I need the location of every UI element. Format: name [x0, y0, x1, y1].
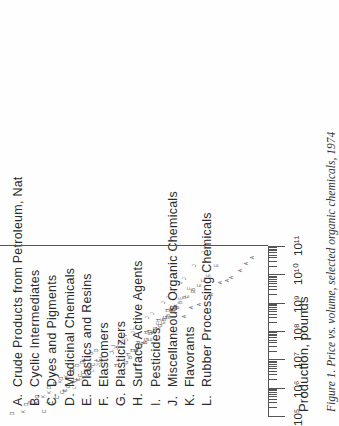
axis-title: Production, pounds	[296, 296, 311, 412]
axis-tick-minor	[268, 351, 277, 352]
axis-tick-minor	[268, 304, 277, 305]
axis-tick-minor	[268, 309, 277, 310]
scatter-point: E	[214, 264, 219, 267]
scatter-point: L	[97, 361, 102, 364]
axis-tick-minor	[268, 252, 277, 253]
axis-tick-major	[268, 331, 285, 332]
scatter-point: G	[144, 338, 149, 342]
axis-tick-minor	[268, 340, 277, 341]
scatter-point: J	[182, 277, 187, 280]
scatter-point: D	[94, 349, 99, 353]
scatter-point: A	[250, 256, 255, 259]
scatter-point: H	[166, 308, 171, 312]
scatter-point: J	[136, 326, 141, 329]
axis-tick-minor	[268, 374, 277, 375]
scatter-point: J	[96, 364, 101, 367]
axis-tick-minor	[268, 307, 277, 308]
scatter-point: L	[130, 327, 135, 330]
scatter-point: K	[47, 390, 52, 393]
axis-tick-minor	[268, 407, 277, 408]
axis-tick-minor	[268, 390, 277, 391]
scatter-point: E	[191, 290, 196, 293]
axis-tick-minor	[268, 286, 277, 287]
axis-tick-minor	[268, 279, 277, 280]
axis-tick-major	[268, 246, 285, 247]
scatter-point: K	[34, 401, 39, 404]
figure-caption: Figure 1. Price vs. volume, selected org…	[325, 132, 337, 412]
scatter-point: A	[209, 292, 214, 295]
axis-tick-minor	[268, 389, 277, 390]
scatter-point: E	[197, 284, 202, 287]
axis-tick-minor	[268, 379, 277, 380]
axis-tick-minor	[268, 399, 277, 400]
scatter-point: I	[62, 390, 67, 391]
scatter-point: L	[90, 369, 95, 372]
axis-tick-major	[268, 388, 285, 389]
scatter-point: J	[171, 290, 176, 293]
scatter-point: J	[201, 251, 206, 254]
scatter-point: E	[201, 279, 206, 282]
scatter-point: D	[48, 386, 53, 390]
scatter-point: I	[47, 402, 52, 403]
scatter-point: L	[85, 373, 90, 376]
scatter-point: H	[144, 330, 149, 334]
axis-tick-minor	[268, 322, 277, 323]
scatter-point: F	[187, 287, 192, 290]
axis-tick-minor	[268, 294, 277, 295]
axis-tick-minor	[268, 247, 277, 248]
scatter-point: A	[189, 305, 194, 308]
scatter-point: G	[159, 323, 164, 327]
axis-tick-minor	[268, 342, 277, 343]
axis-tick-minor	[268, 277, 277, 278]
scatter-point: G	[173, 305, 178, 309]
axis-tick-minor	[268, 332, 277, 333]
scatter-point: L	[119, 338, 124, 341]
scatter-point: D	[75, 364, 80, 368]
axis-tick-minor	[268, 361, 277, 362]
scatter-point: C	[55, 396, 60, 400]
scatter-point: H	[157, 318, 162, 322]
axis-tick-minor	[268, 362, 277, 363]
scatter-point: K	[21, 410, 26, 413]
axis-tick-minor	[268, 317, 277, 318]
scatter-point: J	[161, 301, 166, 304]
axis-tick-minor	[268, 394, 277, 395]
scatter-point: H	[114, 364, 119, 368]
axis-tick-minor	[268, 364, 277, 365]
scatter-point: K	[41, 395, 46, 398]
axis-tick-minor	[268, 281, 277, 282]
scatter-point: A	[197, 302, 202, 305]
axis-tick-minor	[268, 335, 277, 336]
axis-tick-minor	[268, 371, 277, 372]
scatter-point: J	[131, 331, 136, 334]
scatter-point: I	[123, 335, 128, 336]
axis-tick-minor	[268, 261, 277, 262]
scatter-point: K	[82, 359, 87, 362]
axis-tick-minor	[268, 249, 277, 250]
scatter-point: J	[123, 338, 128, 341]
scatter-point: J	[81, 378, 86, 381]
scatter-point: H	[130, 349, 135, 353]
scatter-point: I	[99, 356, 104, 357]
scatter-point: G	[124, 360, 129, 364]
axis-tick-minor	[268, 392, 277, 393]
axis-tick-label: 10¹⁰	[291, 261, 305, 285]
scatter-point: A	[238, 269, 243, 272]
scatter-point: K	[70, 369, 75, 372]
axis-tick-minor	[268, 314, 277, 315]
scatter-point: J	[192, 265, 197, 268]
axis-tick-minor	[268, 334, 277, 335]
scatter-point: K	[64, 375, 69, 378]
scatter-point: C	[52, 401, 57, 405]
scatter-point: J	[145, 316, 150, 319]
axis-tick-minor	[268, 366, 277, 367]
axis-tick-major	[268, 274, 285, 275]
scatter-point: A	[244, 262, 249, 265]
axis-tick-major	[268, 416, 285, 417]
axis-tick-minor	[268, 283, 277, 284]
scatter-point: I	[71, 382, 76, 383]
scatter-point: K	[58, 380, 63, 383]
scatter-point: A	[218, 281, 223, 284]
axis-tick-minor	[268, 255, 277, 256]
scatter-point: A	[225, 279, 230, 282]
